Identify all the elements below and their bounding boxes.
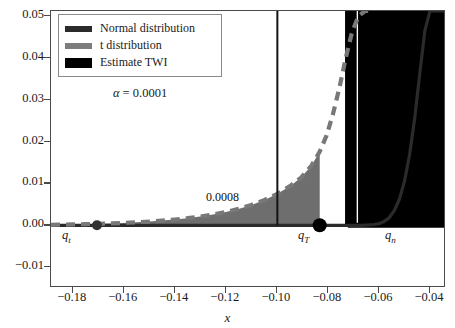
y-tick-label: 0.00	[0, 217, 44, 230]
x-tick-mark	[225, 287, 226, 293]
y-tick-label: 0.03	[0, 92, 44, 105]
q-n-subscript: n	[391, 235, 396, 245]
y-tick-label: 0.02	[0, 134, 44, 147]
alpha-value: 0.0001	[133, 86, 167, 100]
y-tick-label: 0.04	[0, 50, 44, 63]
legend-label-normal: Normal distribution	[100, 21, 195, 36]
y-tick-label: 0.05	[0, 8, 44, 21]
q-T-label: qT	[298, 228, 309, 245]
x-tick-mark	[378, 287, 379, 293]
x-tick-mark	[429, 287, 430, 293]
q-t-subscript: t	[68, 235, 71, 245]
q-t-label: qt	[62, 228, 71, 245]
legend-label-t: t distribution	[100, 38, 162, 53]
alpha-annotation: α = 0.0001	[58, 86, 222, 101]
q-T-marker	[313, 218, 327, 232]
y-tick-label: −0.01	[0, 259, 44, 272]
t-line-swatch-icon	[65, 43, 92, 49]
x-tick-mark	[276, 287, 277, 293]
alpha-symbol: α	[113, 86, 120, 100]
estimate-twi-lines	[348, 11, 444, 225]
shaded-tail-area	[51, 152, 320, 226]
legend-item-t: t distribution	[65, 37, 214, 54]
y-tick-label: 0.01	[0, 175, 44, 188]
x-axis-label: x	[0, 310, 455, 326]
tail-fill-path	[51, 152, 320, 226]
q-t-marker	[92, 220, 102, 230]
shaded-area-value-label: 0.0008	[206, 190, 239, 205]
x-tick-mark	[123, 287, 124, 293]
legend-label-twi: Estimate TWI	[100, 55, 167, 70]
legend-box: Normal distribution t distribution Estim…	[58, 14, 222, 77]
chart-figure: −0.010.000.010.020.030.040.05 −0.18−0.16…	[0, 0, 455, 328]
legend-item-twi: Estimate TWI	[65, 54, 214, 71]
q-T-subscript: T	[304, 235, 309, 245]
q-n-label: qn	[385, 228, 396, 245]
x-tick-mark	[72, 287, 73, 293]
twi-bar-swatch-icon	[65, 58, 92, 68]
x-tick-mark	[327, 287, 328, 293]
legend-item-normal: Normal distribution	[65, 20, 214, 37]
alpha-equals: =	[123, 86, 130, 100]
x-tick-mark	[174, 287, 175, 293]
normal-line-swatch-icon	[65, 26, 92, 32]
